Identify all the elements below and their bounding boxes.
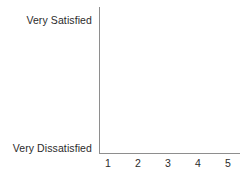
y-axis-bottom-label: Very Dissatisfied <box>0 142 92 154</box>
x-tick-label-1: 1 <box>98 157 118 170</box>
y-axis-top-label: Very Satisfied <box>0 14 92 26</box>
x-tick-label-4: 4 <box>188 157 208 170</box>
plot-area <box>100 7 240 153</box>
x-axis-tick-labels: 1 2 3 4 5 <box>99 157 240 171</box>
x-tick-label-3: 3 <box>158 157 178 170</box>
x-tick-label-5: 5 <box>218 157 238 170</box>
x-axis-line <box>99 153 240 154</box>
x-tick-label-2: 2 <box>128 157 148 170</box>
y-axis-line <box>99 7 100 154</box>
chart-screenshot: Very Satisfied Very Dissatisfied 1 2 3 4… <box>0 0 245 176</box>
